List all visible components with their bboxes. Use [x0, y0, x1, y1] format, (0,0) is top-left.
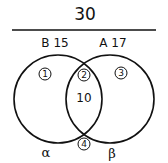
region-4-marker: 4	[78, 138, 90, 150]
universal-total: 30	[74, 4, 96, 24]
alpha-label: α	[42, 145, 51, 160]
beta-label: β	[108, 146, 116, 161]
venn-diagram: 30 B 15 A 17 1 2 10 3 4 α β	[0, 0, 168, 163]
region-3-label: 3	[118, 68, 124, 78]
set-a-label: A 17	[99, 36, 126, 50]
region-2-label: 2	[81, 70, 87, 80]
region-1-marker: 1	[39, 68, 51, 80]
intersection-count: 10	[76, 91, 91, 105]
region-1-label: 1	[42, 69, 48, 79]
region-4-label: 4	[81, 139, 87, 149]
set-b-label: B 15	[41, 36, 68, 50]
region-3-marker: 3	[115, 67, 127, 79]
region-2-marker: 2	[78, 69, 90, 81]
